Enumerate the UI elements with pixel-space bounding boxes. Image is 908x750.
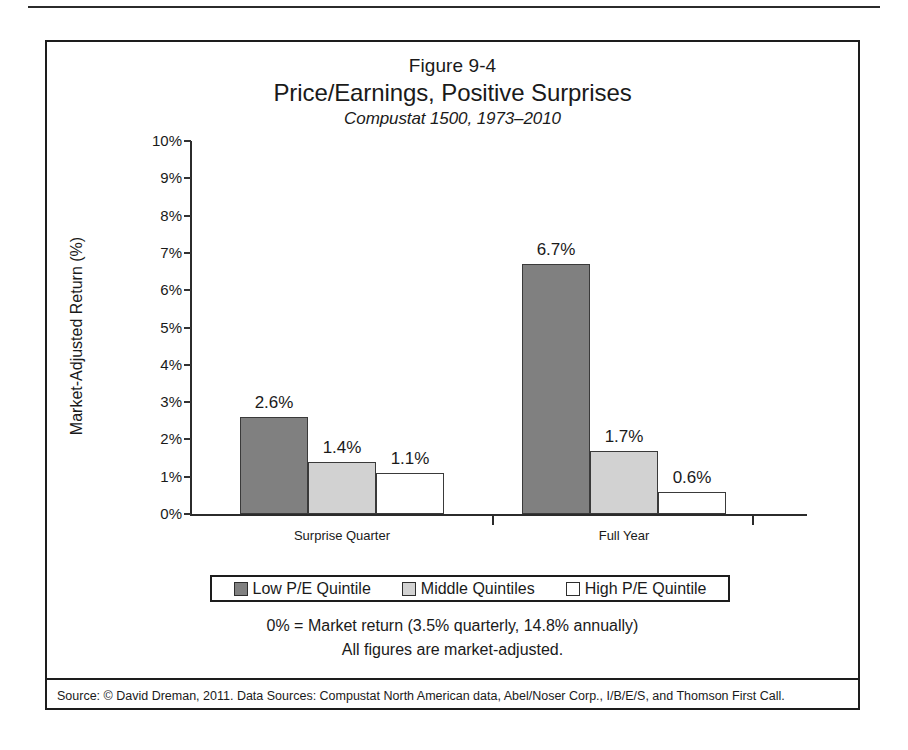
y-tick-label: 4% xyxy=(140,357,182,372)
source-divider xyxy=(47,678,858,680)
y-tick-label: 6% xyxy=(140,282,182,297)
bar-surprise-quarter-high-p-e-quintile xyxy=(376,473,444,514)
bar-value-label: 6.7% xyxy=(512,240,600,260)
chart-legend: Low P/E Quintile Middle Quintiles High P… xyxy=(210,575,730,602)
y-tick-label: 9% xyxy=(140,170,182,185)
y-axis-line xyxy=(190,141,192,516)
legend-item-middle: Middle Quintiles xyxy=(402,580,535,598)
y-tick-label: 10% xyxy=(140,133,182,148)
x-axis-group-tick xyxy=(752,516,754,525)
bar-value-label: 1.7% xyxy=(580,427,668,447)
source-note: Source: © David Dreman, 2011. Data Sourc… xyxy=(57,688,852,704)
x-axis-group-tick xyxy=(492,516,494,525)
y-tick-mark xyxy=(184,513,191,515)
y-tick-label: 5% xyxy=(140,320,182,335)
y-tick-mark xyxy=(184,401,191,403)
x-axis-line xyxy=(190,514,807,516)
y-tick-label: 0% xyxy=(140,506,182,521)
bar-value-label: 0.6% xyxy=(648,468,736,488)
y-axis-title-text: Market-Adjusted Return (%) xyxy=(68,237,86,435)
y-tick-mark xyxy=(184,215,191,217)
chart-plot-area: Market-Adjusted Return (%) 10%9%8%7%6%5%… xyxy=(47,42,862,712)
bar-surprise-quarter-low-p-e-quintile xyxy=(240,417,308,514)
note-line-1: 0% = Market return (3.5% quarterly, 14.8… xyxy=(47,614,858,638)
x-category-label: Surprise Quarter xyxy=(262,528,422,543)
legend-label-high-pe: High P/E Quintile xyxy=(585,580,707,598)
y-tick-mark xyxy=(184,289,191,291)
y-tick-label: 3% xyxy=(140,394,182,409)
figure-container: Figure 9-4 Price/Earnings, Positive Surp… xyxy=(45,40,860,710)
x-category-label: Full Year xyxy=(544,528,704,543)
y-tick-mark xyxy=(184,327,191,329)
y-tick-mark xyxy=(184,177,191,179)
y-tick-label: 2% xyxy=(140,431,182,446)
y-tick-label: 1% xyxy=(140,469,182,484)
bar-value-label: 2.6% xyxy=(230,393,318,413)
legend-swatch-low-pe xyxy=(234,582,248,596)
y-tick-mark xyxy=(184,252,191,254)
note-line-2: All figures are market-adjusted. xyxy=(47,638,858,662)
bar-surprise-quarter-middle-quintiles xyxy=(308,462,376,514)
y-axis-title: Market-Adjusted Return (%) xyxy=(65,152,89,502)
page-top-rule xyxy=(28,6,880,8)
bar-value-label: 1.1% xyxy=(366,449,454,469)
figure-notes: 0% = Market return (3.5% quarterly, 14.8… xyxy=(47,614,858,662)
y-tick-mark xyxy=(184,476,191,478)
y-tick-mark xyxy=(184,364,191,366)
y-tick-label: 7% xyxy=(140,245,182,260)
legend-label-middle: Middle Quintiles xyxy=(421,580,535,598)
bar-full-year-low-p-e-quintile xyxy=(522,264,590,514)
legend-label-low-pe: Low P/E Quintile xyxy=(253,580,371,598)
legend-item-low-pe: Low P/E Quintile xyxy=(234,580,371,598)
legend-item-high-pe: High P/E Quintile xyxy=(566,580,707,598)
legend-swatch-middle xyxy=(402,582,416,596)
legend-swatch-high-pe xyxy=(566,582,580,596)
y-tick-mark xyxy=(184,140,191,142)
y-tick-mark xyxy=(184,438,191,440)
y-tick-label: 8% xyxy=(140,208,182,223)
bar-full-year-high-p-e-quintile xyxy=(658,492,726,514)
